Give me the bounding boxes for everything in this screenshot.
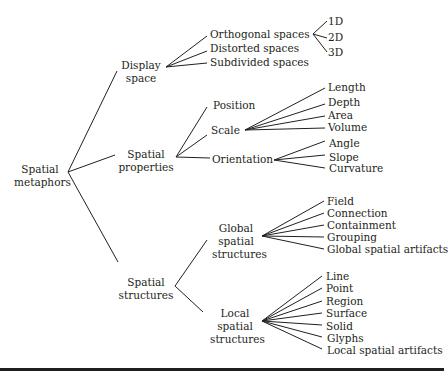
edge-orthogonal-1d xyxy=(313,21,327,34)
edge-properties-orientation xyxy=(176,157,210,158)
edge-root-structures xyxy=(68,172,118,262)
node-display-space: Display space xyxy=(118,59,164,85)
node-orientation: Orientation xyxy=(212,153,273,166)
node-3d: 3D xyxy=(328,46,343,59)
node-line: spatial xyxy=(212,235,260,248)
node-line: spatial xyxy=(210,320,260,333)
node-line: structures xyxy=(210,333,260,346)
node-spatial-properties: Spatial properties xyxy=(118,148,174,174)
edge-structures-global xyxy=(175,240,207,286)
node-line: structures xyxy=(212,248,260,261)
node-line: Spatial xyxy=(14,163,66,176)
edge-global-artifacts xyxy=(262,236,324,249)
node-distorted-spaces: Distorted spaces xyxy=(210,42,299,55)
edge-orthogonal-3d xyxy=(313,34,327,52)
node-length: Length xyxy=(328,81,366,94)
node-local-spatial-structures: Local spatial structures xyxy=(210,307,260,346)
node-line: properties xyxy=(118,161,174,174)
node-orthogonal-spaces: Orthogonal spaces xyxy=(210,28,310,41)
node-line: Spatial xyxy=(118,276,174,289)
node-global-spatial-structures: Global spatial structures xyxy=(212,222,260,261)
edge-display-orthogonal xyxy=(166,36,207,67)
edge-properties-position xyxy=(176,107,207,157)
node-line: space xyxy=(118,72,164,85)
node-volume: Volume xyxy=(328,121,367,134)
node-subdivided-spaces: Subdivided spaces xyxy=(210,56,309,69)
node-line: metaphors xyxy=(14,176,66,189)
edge-properties-scale xyxy=(176,135,207,157)
edge-orientation-curvature xyxy=(274,160,325,168)
node-line: Spatial xyxy=(118,148,174,161)
node-depth: Depth xyxy=(328,96,360,109)
edge-scale-depth xyxy=(245,104,325,130)
node-global-spatial-artifacts: Global spatial artifacts xyxy=(327,243,448,256)
node-line: Global xyxy=(212,222,260,235)
edge-structures-local xyxy=(175,286,203,312)
node-position: Position xyxy=(213,99,255,112)
node-scale: Scale xyxy=(211,124,240,137)
bottom-rule xyxy=(0,368,444,371)
node-local-spatial-artifacts: Local spatial artifacts xyxy=(327,344,443,357)
edge-scale-length xyxy=(245,88,325,130)
node-angle: Angle xyxy=(329,137,360,150)
edge-global-grouping xyxy=(262,236,324,237)
node-point: Point xyxy=(326,282,353,295)
node-curvature: Curvature xyxy=(329,162,383,175)
node-2d: 2D xyxy=(328,31,343,44)
node-line: structures xyxy=(118,289,174,302)
node-line: Local xyxy=(210,307,260,320)
edge-global-connection xyxy=(262,213,324,236)
node-spatial-structures: Spatial structures xyxy=(118,276,174,302)
node-spatial-metaphors: Spatial metaphors xyxy=(14,163,66,189)
node-line: Display xyxy=(118,59,164,72)
node-surface: Surface xyxy=(326,307,367,320)
node-1d: 1D xyxy=(328,15,343,28)
